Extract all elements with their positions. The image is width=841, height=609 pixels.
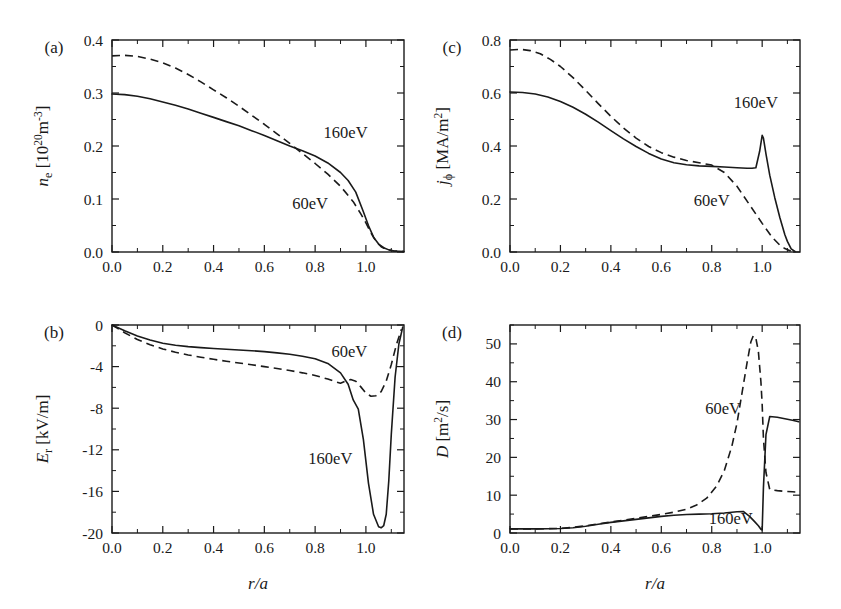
x-axis-title-b: r/a <box>248 574 268 593</box>
ytick-label-a: 0.1 <box>84 191 103 208</box>
ytick-label-c: 0.6 <box>482 85 502 102</box>
panel-letter-c: (c) <box>443 38 462 57</box>
curve-a-160eV <box>112 94 404 251</box>
curve-annotation-160eV: 160eV <box>709 509 753 528</box>
panel-a: 0.00.20.40.60.81.00.00.10.20.30.4160eV60… <box>32 32 404 276</box>
y-axis-title-a: ne [1020m-3] <box>32 106 55 187</box>
xtick-label-d: 0.6 <box>652 539 672 556</box>
xtick-label-b: 0.8 <box>305 539 325 556</box>
y-axis-title-d: D [m2/s] <box>432 400 452 459</box>
four-panel-figure: 0.00.20.40.60.81.00.00.10.20.30.4160eV60… <box>0 0 841 609</box>
panel-c: 0.00.20.40.60.81.00.00.20.40.60.8160eV60… <box>432 32 800 276</box>
curve-c-60eV <box>510 49 795 251</box>
xtick-label-c: 0.8 <box>702 258 722 275</box>
xtick-label-a: 0.4 <box>204 258 224 275</box>
curve-d-160eV <box>510 417 799 530</box>
ytick-label-d: 20 <box>486 449 502 466</box>
ytick-label-c: 0.4 <box>482 138 502 155</box>
ytick-label-a: 0.0 <box>84 244 104 261</box>
xtick-label-b: 1.0 <box>356 539 376 556</box>
curve-c-160eV <box>510 92 795 252</box>
panel-b: 0.00.20.40.60.81.0-20-16-12-8-4060eV160e… <box>33 317 404 594</box>
xtick-label-d: 0.4 <box>601 539 621 556</box>
x-axis-title-d: r/a <box>645 574 665 593</box>
curve-annotation-60eV: 60eV <box>332 342 368 361</box>
xtick-label-a: 1.0 <box>356 258 376 275</box>
xtick-label-c: 0.4 <box>601 258 621 275</box>
curve-annotation-60eV: 60eV <box>705 399 741 418</box>
y-axis-title-c: jϕ [MA/m2] <box>432 107 455 187</box>
ytick-label-c: 0.8 <box>482 32 502 49</box>
ytick-label-c: 0.0 <box>482 244 502 261</box>
curve-a-60eV <box>112 55 404 251</box>
ytick-label-d: 30 <box>486 411 502 428</box>
curve-annotation-160eV: 160eV <box>734 93 778 112</box>
curve-annotation-160eV: 160eV <box>324 123 368 142</box>
ytick-label-c: 0.2 <box>482 191 501 208</box>
xtick-label-d: 0.2 <box>551 539 570 556</box>
curve-annotation-160eV: 160eV <box>308 449 352 468</box>
ytick-label-d: 40 <box>486 373 502 390</box>
ytick-label-b: -16 <box>82 483 103 500</box>
panel-letter-d: (d) <box>442 323 462 342</box>
ytick-label-a: 0.3 <box>84 85 104 102</box>
xtick-label-b: 0.0 <box>102 539 122 556</box>
panel-d: 0.00.20.40.60.81.00102030405060eV160eV(d… <box>432 323 800 593</box>
xtick-label-d: 1.0 <box>752 539 772 556</box>
y-axis-title-b: Er [kV/m] <box>33 395 55 465</box>
curve-annotation-60eV: 60eV <box>694 191 730 210</box>
xtick-label-c: 0.2 <box>551 258 570 275</box>
xtick-label-a: 0.2 <box>153 258 172 275</box>
xtick-label-c: 0.0 <box>500 258 520 275</box>
figure-container: 0.00.20.40.60.81.00.00.10.20.30.4160eV60… <box>0 0 841 609</box>
ytick-label-a: 0.2 <box>84 138 103 155</box>
xtick-label-b: 0.6 <box>255 539 275 556</box>
xtick-label-d: 0.0 <box>500 539 520 556</box>
xtick-label-a: 0.6 <box>255 258 275 275</box>
ytick-label-b: -4 <box>90 358 103 375</box>
xtick-label-b: 0.4 <box>204 539 224 556</box>
xtick-label-b: 0.2 <box>153 539 172 556</box>
ytick-label-b: -20 <box>82 525 103 542</box>
plot-frame-c <box>510 40 800 252</box>
ytick-label-b: -8 <box>90 400 103 417</box>
panel-letter-a: (a) <box>45 38 64 57</box>
xtick-label-c: 0.6 <box>652 258 672 275</box>
ytick-label-d: 0 <box>493 525 501 542</box>
plot-frame-d <box>510 325 800 533</box>
xtick-label-a: 0.8 <box>305 258 325 275</box>
xtick-label-c: 1.0 <box>752 258 772 275</box>
xtick-label-d: 0.8 <box>702 539 722 556</box>
plot-frame-a <box>112 40 404 252</box>
curve-d-60eV <box>510 336 799 529</box>
curve-annotation-60eV: 60eV <box>292 194 328 213</box>
ytick-label-d: 50 <box>486 335 502 352</box>
panel-letter-b: (b) <box>44 323 64 342</box>
ytick-label-b: -12 <box>82 441 103 458</box>
xtick-label-a: 0.0 <box>102 258 122 275</box>
ytick-label-a: 0.4 <box>84 32 104 49</box>
ytick-label-b: 0 <box>95 317 103 334</box>
ytick-label-d: 10 <box>486 487 502 504</box>
